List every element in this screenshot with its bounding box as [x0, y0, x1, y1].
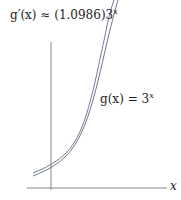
- function-label: g(x) = 3x: [100, 91, 154, 106]
- x-axis-label: x: [170, 179, 177, 193]
- plot-area: [0, 0, 181, 200]
- derivative-label: g′(x) ≈ (1.0986)3x: [10, 7, 118, 22]
- curve-g: [33, 0, 118, 176]
